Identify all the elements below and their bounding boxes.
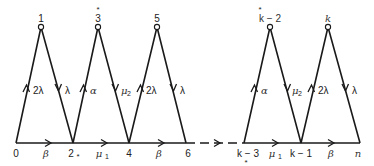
node-k2 (267, 24, 272, 29)
rate-mu2-sub: 2 (298, 90, 302, 97)
node-marker-3: * (96, 5, 99, 14)
rate-mu1-sub: 1 (105, 153, 109, 160)
rate-lambda: λ (352, 85, 357, 96)
node-3 (95, 24, 100, 29)
state-transition-diagram: 1 3 * 5 k − 2 * k 0 2 * 4 6 k − 3 * k − … (0, 0, 374, 166)
node-label-4: 4 (126, 148, 132, 159)
rate-mu1: μ (96, 148, 103, 159)
node-label-6: 6 (185, 148, 191, 159)
rate-2lambda: 2λ (146, 85, 157, 96)
node-label-k2: k − 2 (259, 13, 281, 24)
rate-alpha: α (90, 85, 97, 96)
node-5 (154, 24, 159, 29)
node-marker-k3: * (244, 158, 247, 166)
rate-mu1-sub: 1 (278, 153, 282, 160)
rate-mu1: μ (269, 148, 276, 159)
node-label-3: 3 (95, 13, 101, 24)
node-marker-2: * (76, 152, 79, 161)
rate-alpha: α (261, 85, 268, 96)
edges-peak-5 (129, 27, 186, 143)
node-k (325, 24, 330, 29)
rate-lambda: λ (65, 85, 70, 96)
node-label-k1: k − 1 (290, 148, 312, 159)
node-label-k3: k − 3 (237, 148, 259, 159)
rate-2lambda: 2λ (33, 85, 44, 96)
rate-lambda: λ (180, 85, 185, 96)
rate-beta: β (327, 148, 334, 159)
rate-2lambda: 2λ (318, 85, 329, 96)
node-marker-k2: * (258, 5, 261, 14)
rate-beta: β (42, 148, 49, 159)
node-label-1: 1 (38, 13, 44, 24)
arrow-down-icon (112, 84, 119, 91)
node-label-n: n (355, 148, 361, 159)
node-label-k: k (325, 13, 331, 24)
node-label-0: 0 (13, 148, 19, 159)
node-1 (38, 24, 43, 29)
node-label-5: 5 (154, 13, 160, 24)
arrow-down-icon (284, 84, 291, 91)
rate-mu2-sub: 2 (127, 90, 131, 97)
node-label-2: 2 (68, 148, 74, 159)
rate-beta: β (155, 148, 162, 159)
arrow-down-icon (170, 84, 177, 91)
